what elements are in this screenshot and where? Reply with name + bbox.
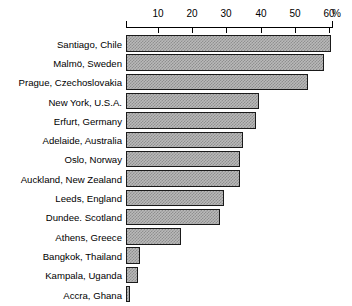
x-axis-end-cap xyxy=(332,21,333,28)
bar-row: Malmö, Sweden xyxy=(0,53,352,72)
x-axis: 10 20 30 40 50 60 % xyxy=(126,8,344,36)
bar xyxy=(126,190,224,206)
bar xyxy=(126,267,138,283)
x-axis-tick xyxy=(329,27,330,33)
bar xyxy=(126,170,240,186)
bar-row-label: Erfurt, Germany xyxy=(54,115,122,126)
bar-row-label: Kampala, Uganda xyxy=(45,270,122,281)
x-axis-tick-label: 50 xyxy=(289,8,300,19)
bar xyxy=(126,74,308,90)
x-axis-tick xyxy=(261,27,262,33)
bar xyxy=(126,35,331,51)
bar-row-label: Adelaide, Australia xyxy=(43,135,122,146)
x-axis-tick xyxy=(295,27,296,33)
x-axis-tick-label: 30 xyxy=(220,8,231,19)
x-axis-start-cap xyxy=(126,21,127,28)
bar-row: Kampala, Uganda xyxy=(0,266,352,285)
bar xyxy=(126,151,240,167)
bar xyxy=(126,132,243,148)
x-axis-tick-label: 20 xyxy=(186,8,197,19)
bar-row-label: Santiago, Chile xyxy=(57,38,122,49)
bar xyxy=(126,54,324,70)
bar-row: New York, U.S.A. xyxy=(0,92,352,111)
bar xyxy=(126,209,220,225)
bar-row: Erfurt, Germany xyxy=(0,111,352,130)
bar-row-label: Leeds, England xyxy=(55,193,122,204)
bar-row: Accra, Ghana xyxy=(0,285,352,304)
bar-row-label: Accra, Ghana xyxy=(63,289,122,300)
bar-row-label: Athens, Greece xyxy=(55,231,122,242)
bar xyxy=(126,93,259,109)
bar-row: Dundee. Scotland xyxy=(0,208,352,227)
bar xyxy=(126,247,140,263)
bar-row: Prague, Czechoslovakia xyxy=(0,73,352,92)
bar-row-label: Auckland, New Zealand xyxy=(21,173,122,184)
bar-rows: Santiago, Chile Malmö, Sweden Prague, Cz… xyxy=(0,34,352,304)
bar xyxy=(126,228,181,244)
bar-row-label: Oslo, Norway xyxy=(64,154,122,165)
bar-row: Santiago, Chile xyxy=(0,34,352,53)
x-axis-tick-label: 40 xyxy=(255,8,266,19)
bar-row: Bangkok, Thailand xyxy=(0,246,352,265)
bar-row-label: Prague, Czechoslovakia xyxy=(19,77,122,88)
x-axis-tick xyxy=(226,27,227,33)
x-axis-tick xyxy=(158,27,159,33)
x-axis-tick xyxy=(192,27,193,33)
bar-row-label: Malmö, Sweden xyxy=(53,57,122,68)
bar xyxy=(126,112,256,128)
bar-row: Athens, Greece xyxy=(0,227,352,246)
bar-row-label: New York, U.S.A. xyxy=(48,96,122,107)
bar xyxy=(126,286,130,302)
bar-row: Oslo, Norway xyxy=(0,150,352,169)
bar-row: Adelaide, Australia xyxy=(0,130,352,149)
bar-chart: 10 20 30 40 50 60 % Santiago, Chile Malm… xyxy=(0,0,352,306)
bar-row-label: Bangkok, Thailand xyxy=(43,250,122,261)
bar-row: Leeds, England xyxy=(0,188,352,207)
percent-unit-label: % xyxy=(332,8,341,19)
bar-row: Auckland, New Zealand xyxy=(0,169,352,188)
x-axis-tick-label: 10 xyxy=(152,8,163,19)
bar-row-label: Dundee. Scotland xyxy=(46,212,122,223)
